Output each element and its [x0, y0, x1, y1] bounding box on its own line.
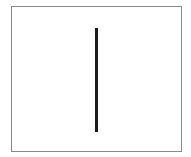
vertical-line — [95, 28, 98, 132]
